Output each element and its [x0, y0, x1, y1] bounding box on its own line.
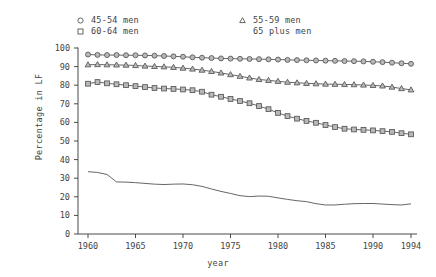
data-point-marker [409, 61, 414, 66]
data-point-marker [342, 126, 347, 131]
data-point-marker [257, 57, 262, 62]
data-point-marker [152, 53, 157, 58]
data-point-marker [285, 57, 290, 62]
data-point-marker [86, 81, 91, 86]
data-point-marker [295, 116, 300, 121]
data-point-marker [200, 89, 205, 94]
data-point-marker [304, 58, 309, 63]
data-point-marker [238, 99, 243, 104]
data-point-marker [190, 55, 195, 60]
data-point-marker [209, 92, 214, 97]
data-point-marker [266, 57, 271, 62]
data-point-marker [266, 107, 271, 112]
data-point-marker [295, 58, 300, 63]
y-tick-label: 50 [32, 136, 70, 146]
data-point-marker [181, 87, 186, 92]
data-point-marker [371, 59, 376, 64]
data-point-marker [133, 53, 138, 58]
data-point-marker [124, 53, 129, 58]
x-tick-label: 1975 [211, 241, 251, 251]
data-point-marker [333, 125, 338, 130]
y-tick-label: 40 [32, 155, 70, 165]
data-point-marker [105, 53, 110, 58]
data-point-marker [371, 128, 376, 133]
data-point-marker [390, 60, 395, 65]
data-point-marker [143, 53, 148, 58]
data-point-marker [124, 83, 129, 88]
x-tick-label: 1960 [68, 241, 108, 251]
x-tick-label: 1970 [163, 241, 203, 251]
data-point-marker [95, 52, 100, 57]
data-point-marker [228, 97, 233, 102]
data-point-marker [247, 101, 252, 106]
data-point-marker [247, 56, 252, 61]
x-tick-label: 1990 [353, 241, 393, 251]
data-point-marker [95, 62, 101, 67]
x-tick-label: 1965 [116, 241, 156, 251]
y-tick-label: 80 [32, 80, 70, 90]
data-point-marker [95, 80, 100, 85]
data-point-marker [390, 129, 395, 134]
data-point-marker [219, 56, 224, 61]
data-point-marker [304, 119, 309, 124]
y-tick-label: 0 [32, 229, 70, 239]
data-point-marker [285, 114, 290, 119]
y-tick-label: 20 [32, 192, 70, 202]
data-point-marker [323, 58, 328, 63]
x-tick-label: 1994 [391, 241, 431, 251]
data-point-marker [143, 85, 148, 90]
data-point-marker [342, 59, 347, 64]
x-axis-title: year [0, 258, 436, 268]
data-point-marker [133, 84, 138, 89]
plot-area: Percentage in LF year 100908070605040302… [0, 0, 436, 277]
data-point-marker [162, 53, 167, 58]
chart-figure: 45-54 men 60-64 men 55-59 men 65 plus me… [0, 0, 436, 277]
data-point-marker [399, 61, 404, 66]
data-point-marker [409, 132, 414, 137]
x-tick-label: 1980 [258, 241, 298, 251]
y-tick-label: 30 [32, 173, 70, 183]
data-point-marker [228, 56, 233, 61]
data-point-marker [181, 54, 186, 59]
y-tick-label: 90 [32, 62, 70, 72]
data-point-marker [152, 86, 157, 91]
data-point-marker [190, 88, 195, 93]
data-point-marker [276, 57, 281, 62]
data-point-marker [219, 94, 224, 99]
data-point-marker [323, 123, 328, 128]
y-tick-label: 10 [32, 210, 70, 220]
x-tick-label: 1985 [306, 241, 346, 251]
data-point-marker [333, 58, 338, 63]
data-point-marker [114, 53, 119, 58]
data-point-marker [361, 127, 366, 132]
data-point-marker [352, 59, 357, 64]
y-tick-label: 70 [32, 99, 70, 109]
y-tick-label: 100 [32, 43, 70, 53]
data-point-marker [276, 111, 281, 116]
data-point-marker [114, 82, 119, 87]
data-point-marker [361, 59, 366, 64]
data-point-marker [314, 120, 319, 125]
data-point-marker [171, 54, 176, 59]
data-point-marker [352, 127, 357, 132]
data-point-marker [105, 81, 110, 86]
data-point-marker [238, 56, 243, 61]
data-point-marker [86, 52, 91, 57]
data-point-marker [380, 60, 385, 65]
data-point-marker [162, 86, 167, 91]
data-point-marker [380, 129, 385, 134]
data-point-marker [399, 131, 404, 136]
data-point-marker [314, 58, 319, 63]
data-point-marker [257, 104, 262, 109]
data-point-marker [200, 55, 205, 60]
data-point-marker [209, 56, 214, 61]
data-point-marker [171, 87, 176, 92]
y-tick-label: 60 [32, 117, 70, 127]
